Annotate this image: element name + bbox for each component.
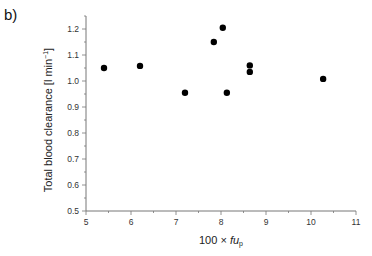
- y-axis-title-main: Total blood clearance [l min: [42, 59, 54, 192]
- data-point: [247, 69, 253, 75]
- x-tick-label: 9: [264, 217, 269, 227]
- data-point: [182, 90, 188, 96]
- x-tick-label: 5: [84, 217, 89, 227]
- x-tick-label: 7: [174, 217, 179, 227]
- data-points: [101, 25, 327, 96]
- data-point: [101, 65, 107, 71]
- y-tick-label: 1.0: [67, 76, 79, 86]
- x-tick-label: 8: [219, 217, 224, 227]
- x-tick-label: 11: [352, 217, 361, 227]
- x-axis-title: 100 × fup: [199, 234, 243, 248]
- data-point: [137, 63, 143, 69]
- x-axis-title-var: fu: [230, 234, 239, 246]
- y-tick-label: 1.1: [67, 50, 79, 60]
- x-tick-label: 10: [306, 217, 316, 227]
- y-axis-title-sup: −1: [42, 51, 49, 59]
- panel-label: b): [4, 6, 17, 23]
- y-axis-title-end: ]: [42, 48, 54, 51]
- data-point: [247, 62, 253, 68]
- data-point: [211, 39, 217, 45]
- y-tick-label: 0.8: [67, 128, 79, 138]
- y-tick-label: 1.2: [67, 24, 79, 34]
- axes: 0.50.60.70.80.91.01.11.2567891011: [67, 16, 361, 227]
- data-point: [220, 25, 226, 31]
- x-axis-title-prefix: 100 ×: [199, 234, 230, 246]
- data-point: [320, 76, 326, 82]
- data-point: [224, 90, 230, 96]
- x-tick-label: 6: [129, 217, 134, 227]
- x-axis-title-sub: p: [239, 240, 243, 248]
- y-tick-label: 0.9: [67, 102, 79, 112]
- scatter-chart: b) 0.50.60.70.80.91.01.11.2567891011 100…: [0, 0, 372, 256]
- y-tick-label: 0.6: [67, 180, 79, 190]
- y-tick-label: 0.7: [67, 154, 79, 164]
- y-tick-label: 0.5: [67, 206, 79, 216]
- y-axis-title: Total blood clearance [l min−1]: [42, 48, 54, 192]
